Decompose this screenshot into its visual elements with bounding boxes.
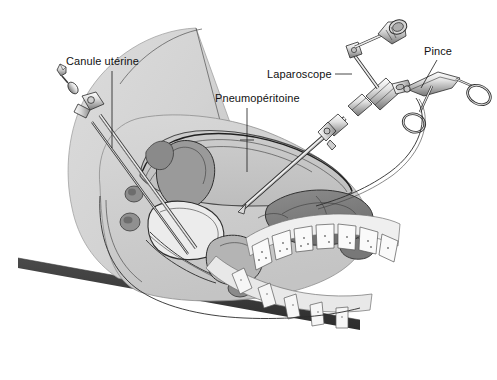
forceps-hinge: [404, 86, 410, 92]
label-pince: Pince: [424, 45, 452, 57]
medical-illustration-figure: Canule utérine Pneumopéritoine Laparosco…: [0, 0, 497, 380]
label-pneumoperitoine: Pneumopéritoine: [215, 92, 300, 104]
label-laparoscope: Laparoscope: [267, 68, 332, 80]
label-canule-uterine: Canule utérine: [66, 55, 139, 67]
illustration-canvas: Canule utérine Pneumopéritoine Laparosco…: [0, 0, 497, 380]
